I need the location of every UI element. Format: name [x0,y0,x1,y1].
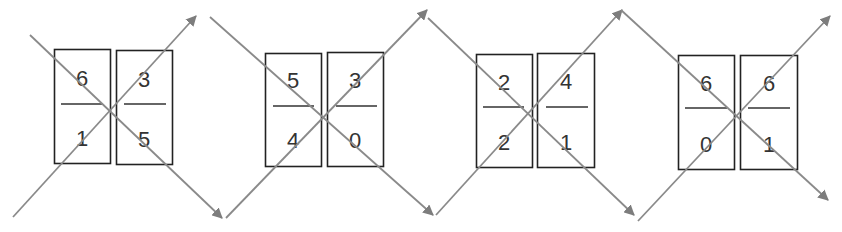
numerator: 3 [138,67,150,92]
numerator: 5 [287,68,299,93]
arrow-down-right-icon [428,18,634,215]
fraction-card: 3 5 [117,51,173,165]
arrow-up-right-icon [226,10,427,218]
denominator: 2 [498,130,510,155]
denominator: 1 [763,132,775,157]
fraction-card: 5 4 [266,54,322,167]
fraction-card: 6 0 [679,56,735,170]
fraction-card: 3 0 [328,53,384,167]
fraction-card: 6 1 [741,56,798,170]
arrow-up-right-icon [638,16,830,221]
numerator: 6 [763,71,775,96]
arrow-down-right-icon [210,17,433,215]
fraction-cross-diagram: 6 1 3 5 5 4 3 0 2 2 [0,0,842,232]
fraction-group-2: 5 4 3 0 [266,53,384,167]
numerator: 6 [76,66,88,91]
denominator: 1 [560,130,572,155]
fraction-group-4: 6 0 6 1 [679,56,798,170]
